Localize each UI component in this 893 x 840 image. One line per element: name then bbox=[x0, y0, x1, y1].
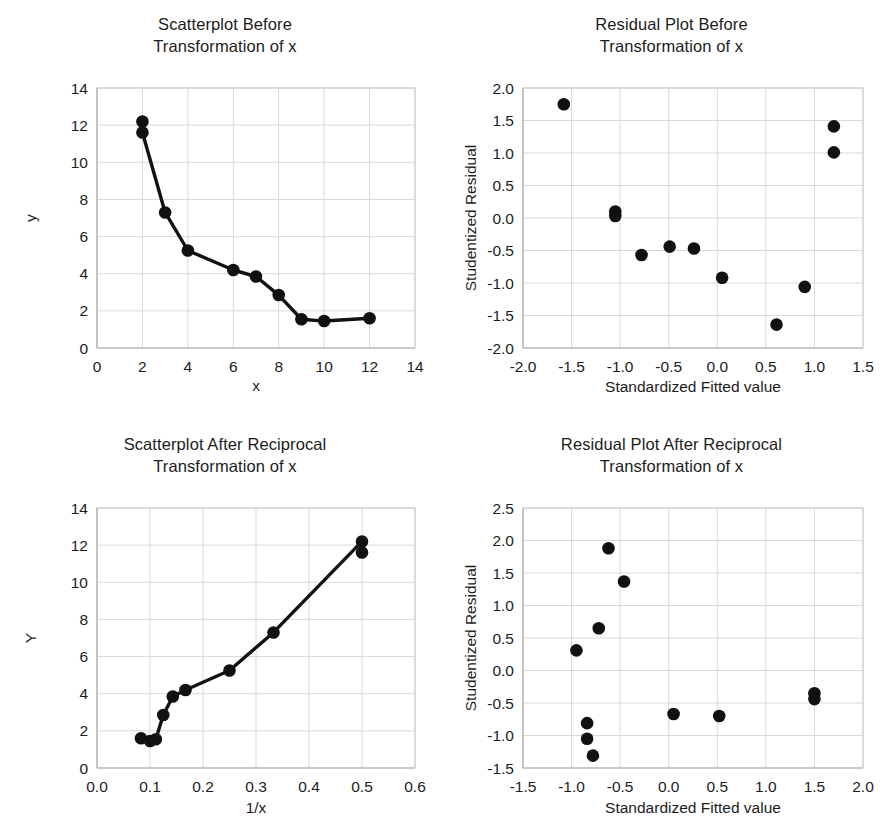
data-point bbox=[267, 626, 280, 639]
x-axis-title: 1/x bbox=[246, 799, 267, 816]
y-axis-title: y bbox=[22, 214, 39, 222]
y-tick-label: 2 bbox=[79, 722, 88, 739]
x-tick-label: -1.5 bbox=[510, 778, 537, 795]
y-tick-label: 4 bbox=[79, 685, 88, 702]
y-tick-label: 0.0 bbox=[492, 210, 514, 227]
y-axis-title: Y bbox=[22, 633, 39, 643]
data-point bbox=[182, 244, 195, 257]
data-point bbox=[581, 732, 594, 745]
data-point bbox=[609, 210, 622, 223]
data-point bbox=[295, 313, 308, 326]
y-tick-label: 2.5 bbox=[492, 500, 514, 517]
y-tick-label: 2.0 bbox=[492, 532, 514, 549]
x-tick-label: 10 bbox=[316, 358, 334, 375]
x-tick-label: -0.5 bbox=[655, 358, 682, 375]
data-point bbox=[713, 710, 726, 723]
data-point bbox=[166, 690, 179, 703]
data-point bbox=[828, 120, 841, 133]
data-point bbox=[136, 115, 149, 128]
data-point bbox=[602, 542, 615, 555]
data-point bbox=[808, 693, 821, 706]
y-tick-label: 0.5 bbox=[492, 177, 514, 194]
y-tick-label: 2.0 bbox=[492, 80, 514, 97]
data-point bbox=[179, 684, 192, 697]
x-tick-label: 1.0 bbox=[804, 358, 826, 375]
y-tick-label: 0.5 bbox=[492, 630, 514, 647]
y-tick-label: -1.0 bbox=[487, 275, 514, 292]
data-point bbox=[618, 575, 631, 588]
data-point bbox=[716, 272, 729, 285]
y-tick-label: 12 bbox=[71, 537, 88, 554]
data-point bbox=[558, 98, 571, 111]
y-tick-label: 0 bbox=[79, 340, 88, 357]
x-tick-label: 0.0 bbox=[86, 778, 108, 795]
y-tick-label: 12 bbox=[71, 117, 88, 134]
y-tick-label: 6 bbox=[79, 228, 88, 245]
data-point bbox=[227, 264, 240, 277]
x-tick-label: 0.3 bbox=[245, 778, 267, 795]
y-tick-label: 8 bbox=[79, 191, 88, 208]
y-tick-label: 1.0 bbox=[492, 597, 514, 614]
data-point bbox=[136, 126, 149, 139]
x-tick-label: 0.6 bbox=[404, 778, 426, 795]
data-point bbox=[770, 318, 783, 331]
data-point bbox=[356, 535, 369, 548]
data-point bbox=[570, 644, 583, 657]
y-tick-label: 1.0 bbox=[492, 145, 514, 162]
x-tick-label: -1.0 bbox=[607, 358, 634, 375]
data-point bbox=[663, 240, 676, 253]
y-axis-title: Studentized Residual bbox=[462, 145, 479, 292]
y-tick-label: 4 bbox=[79, 265, 88, 282]
data-point bbox=[250, 270, 263, 283]
y-tick-label: -1.0 bbox=[487, 727, 514, 744]
data-point bbox=[363, 312, 376, 325]
y-tick-label: 0 bbox=[79, 760, 88, 777]
x-tick-label: 0.0 bbox=[658, 778, 680, 795]
series-line bbox=[141, 541, 362, 741]
x-tick-label: -1.0 bbox=[558, 778, 585, 795]
x-tick-label: 14 bbox=[406, 358, 424, 375]
data-point bbox=[157, 709, 170, 722]
x-tick-label: 0.5 bbox=[755, 358, 777, 375]
data-point bbox=[581, 717, 594, 730]
y-tick-label: -0.5 bbox=[487, 695, 514, 712]
data-point bbox=[688, 242, 701, 255]
data-point bbox=[592, 622, 605, 635]
y-tick-label: 14 bbox=[71, 500, 89, 517]
data-point bbox=[587, 749, 600, 762]
x-tick-label: 1.5 bbox=[852, 358, 874, 375]
x-tick-label: -1.5 bbox=[558, 358, 585, 375]
panel-residual-plot-before: Residual Plot Before Transformation of x… bbox=[450, 0, 893, 420]
x-tick-label: 0 bbox=[93, 358, 102, 375]
x-tick-label: -0.5 bbox=[607, 778, 634, 795]
y-tick-label: 10 bbox=[71, 574, 89, 591]
y-tick-label: -1.5 bbox=[487, 760, 514, 777]
y-tick-label: -2.0 bbox=[487, 340, 514, 357]
x-tick-label: 1.0 bbox=[755, 778, 777, 795]
data-point bbox=[150, 733, 163, 746]
plot-area-scatterplot-before: 0246810121402468101214xy bbox=[0, 0, 450, 420]
data-point bbox=[356, 546, 369, 559]
x-tick-label: 1.5 bbox=[804, 778, 826, 795]
data-point bbox=[272, 289, 285, 302]
y-tick-label: 1.5 bbox=[492, 565, 514, 582]
data-point bbox=[635, 249, 648, 262]
data-point bbox=[318, 315, 331, 328]
x-axis-title: Standardized Fitted value bbox=[605, 799, 781, 816]
y-tick-label: -1.5 bbox=[487, 307, 514, 324]
x-axis-title: x bbox=[252, 377, 260, 394]
y-tick-label: 14 bbox=[71, 80, 89, 97]
figure-grid: Scatterplot Before Transformation of x 0… bbox=[0, 0, 893, 840]
data-point bbox=[159, 206, 172, 219]
x-tick-label: -2.0 bbox=[510, 358, 537, 375]
x-tick-label: 2.0 bbox=[852, 778, 874, 795]
plot-area-scatterplot-after: 0.00.10.20.30.40.50.6024681012141/xY bbox=[0, 420, 450, 840]
y-tick-label: 2 bbox=[79, 302, 88, 319]
y-tick-label: 8 bbox=[79, 611, 88, 628]
x-axis-title: Standardized Fitted value bbox=[605, 378, 781, 395]
data-point bbox=[667, 708, 680, 721]
x-tick-label: 4 bbox=[184, 358, 193, 375]
x-tick-label: 2 bbox=[138, 358, 147, 375]
y-tick-label: -0.5 bbox=[487, 242, 514, 259]
y-axis-title: Studentized Residual bbox=[462, 565, 479, 712]
